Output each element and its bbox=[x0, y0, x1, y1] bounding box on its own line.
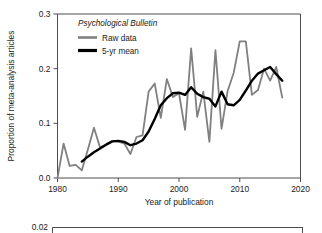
legend-label-five-yr-mean: 5-yr mean bbox=[102, 47, 139, 56]
x-tick-label: 2010 bbox=[230, 184, 249, 194]
x-tick-label: 2020 bbox=[291, 184, 310, 194]
x-tick-label: 1990 bbox=[109, 184, 128, 194]
figure-container: 0.00.10.20.3 19801990200020102020 Propor… bbox=[0, 0, 322, 233]
y-tick-label: 0.2 bbox=[39, 64, 51, 74]
secondary-panel-ytick-label: 0.02 bbox=[32, 222, 49, 232]
y-axis-title: Proportion of meta-analysis articles bbox=[6, 31, 16, 162]
legend-label-raw-data: Raw data bbox=[102, 34, 137, 43]
x-tick-label: 2000 bbox=[170, 184, 189, 194]
y-tick-label: 0.1 bbox=[39, 118, 51, 128]
y-tick-label: 0.3 bbox=[39, 9, 51, 19]
y-tick-label: 0.0 bbox=[39, 173, 51, 183]
meta-analysis-proportion-chart: 0.00.10.20.3 19801990200020102020 Propor… bbox=[0, 0, 322, 233]
x-tick-label: 1980 bbox=[48, 184, 67, 194]
x-axis-title: Year of publication bbox=[145, 197, 214, 207]
legend-title: Psychological Bulletin bbox=[78, 19, 158, 28]
